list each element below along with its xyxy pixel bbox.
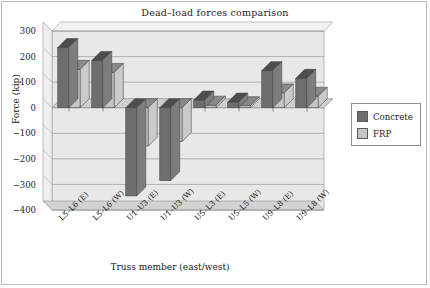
legend-label-concrete: Concrete (373, 112, 413, 122)
plot-area: Force (kip) Truss member (east/west) 300… (0, 0, 430, 288)
legend-label-frp: FRP (373, 129, 391, 139)
legend-item-frp: FRP (357, 128, 391, 139)
legend-swatch-frp (357, 128, 368, 139)
chart-figure: Dead–load forces comparison Force (kip) … (0, 0, 430, 288)
legend: Concrete FRP (351, 103, 421, 146)
left-side-wall (43, 22, 52, 210)
top-depth-strip (52, 22, 333, 31)
legend-item-concrete: Concrete (357, 111, 413, 122)
legend-swatch-concrete (357, 111, 368, 122)
